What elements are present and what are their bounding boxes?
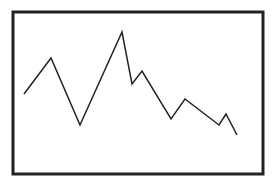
line-chart [0,0,277,182]
data-line [24,32,237,135]
chart-frame [13,12,263,174]
